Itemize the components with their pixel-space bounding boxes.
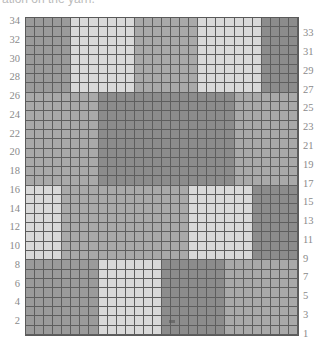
chart-cell [244, 270, 253, 279]
chart-cell [117, 158, 126, 167]
chart-cell [162, 111, 171, 120]
chart-cell [117, 223, 126, 232]
chart-cell [180, 186, 189, 195]
chart-cell [171, 37, 180, 46]
chart-cell [26, 279, 35, 288]
chart-cell [162, 27, 171, 36]
chart-cell [235, 149, 244, 158]
chart-cell [71, 288, 80, 297]
chart-cell [71, 139, 80, 148]
row-label-left: 10 [6, 241, 20, 251]
chart-cell [53, 270, 62, 279]
chart-cell [198, 232, 207, 241]
chart-cell [271, 251, 280, 260]
chart-cell [80, 204, 89, 213]
chart-cell [162, 279, 171, 288]
chart-cell [80, 111, 89, 120]
chart-cell [117, 279, 126, 288]
chart-cell [62, 46, 71, 55]
chart-cell [253, 55, 262, 64]
row-label-left: 2 [6, 316, 20, 326]
chart-cell [244, 27, 253, 36]
chart-cell [162, 83, 171, 92]
chart-cell [35, 65, 44, 74]
chart-cell [53, 279, 62, 288]
chart-cell [62, 149, 71, 158]
chart-cell [253, 326, 262, 335]
row-label-left: 4 [6, 297, 20, 307]
chart-cell [44, 158, 53, 167]
chart-cell [89, 83, 98, 92]
chart-cell [198, 316, 207, 325]
chart-cell [171, 139, 180, 148]
chart-cell [280, 204, 289, 213]
chart-cell [99, 37, 108, 46]
chart-cell [198, 158, 207, 167]
chart-cell [62, 65, 71, 74]
chart-cell [207, 27, 216, 36]
chart-cell [280, 121, 289, 130]
chart-cell [280, 242, 289, 251]
chart-cell [271, 204, 280, 213]
chart-cell [289, 186, 298, 195]
chart-cell [44, 149, 53, 158]
chart-cell [171, 232, 180, 241]
chart-cell [108, 27, 117, 36]
chart-cell [144, 307, 153, 316]
chart-cell [71, 195, 80, 204]
chart-cell [135, 260, 144, 269]
chart-cell [126, 242, 135, 251]
chart-cell [144, 27, 153, 36]
chart-cell [216, 121, 225, 130]
chart-cell [289, 121, 298, 130]
chart-cell [126, 204, 135, 213]
chart-cell [198, 27, 207, 36]
chart-cell [216, 242, 225, 251]
chart-cell [62, 195, 71, 204]
chart-cell [198, 298, 207, 307]
chart-cell [35, 158, 44, 167]
chart-cell [26, 167, 35, 176]
row-label-left: 30 [6, 54, 20, 64]
chart-cell [89, 288, 98, 297]
chart-cell [244, 251, 253, 260]
chart-cell [153, 326, 162, 335]
chart-cell [71, 65, 80, 74]
chart-cell [253, 149, 262, 158]
chart-cell [216, 74, 225, 83]
chart-cell [244, 195, 253, 204]
chart-cell [126, 316, 135, 325]
chart-cell [144, 65, 153, 74]
chart-cell [135, 186, 144, 195]
chart-cell [89, 270, 98, 279]
chart-cell [189, 204, 198, 213]
chart-cell [35, 316, 44, 325]
chart-cell [108, 214, 117, 223]
chart-cell [26, 93, 35, 102]
chart-cell [198, 139, 207, 148]
chart-cell [262, 18, 271, 27]
chart-cell [189, 130, 198, 139]
chart-cell [62, 279, 71, 288]
chart-cell [53, 130, 62, 139]
chart-cell [216, 260, 225, 269]
chart-cell [153, 176, 162, 185]
chart-cell [180, 18, 189, 27]
chart-cell [162, 149, 171, 158]
chart-cell [271, 149, 280, 158]
chart-cell [244, 46, 253, 55]
chart-cell [71, 167, 80, 176]
chart-cell [135, 121, 144, 130]
chart-cell [262, 288, 271, 297]
chart-cell [35, 149, 44, 158]
chart-cell [53, 298, 62, 307]
chart-cell [144, 83, 153, 92]
chart-cell [235, 176, 244, 185]
chart-cell [99, 223, 108, 232]
chart-cell [126, 307, 135, 316]
chart-cell [144, 158, 153, 167]
chart-cell [271, 242, 280, 251]
chart-cell [271, 102, 280, 111]
chart-cell [144, 279, 153, 288]
chart-cell [89, 307, 98, 316]
